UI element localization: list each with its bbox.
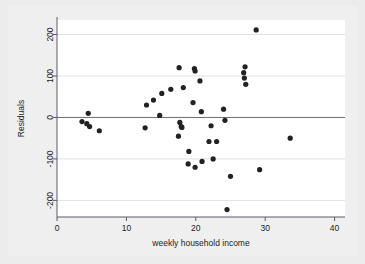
data-point [181, 85, 186, 90]
data-point [86, 111, 91, 116]
data-point [199, 109, 204, 114]
data-point [151, 97, 156, 102]
x-tick-label: 0 [55, 223, 60, 233]
data-point [208, 123, 213, 128]
data-point [241, 70, 246, 75]
data-point [177, 65, 182, 70]
y-tick-label: -200 [45, 192, 55, 209]
x-tick-label: 10 [122, 223, 132, 233]
data-point [214, 139, 219, 144]
data-point [211, 156, 216, 161]
data-point [206, 139, 211, 144]
y-tick-label: 100 [45, 69, 55, 83]
data-point [159, 91, 164, 96]
data-point [197, 78, 202, 83]
data-point [242, 75, 247, 80]
data-point [224, 207, 229, 212]
data-point [179, 125, 184, 130]
data-point [228, 174, 233, 179]
data-point [222, 118, 227, 123]
data-point [143, 125, 148, 130]
scatter-plot: 010203040 -200-1000100200 weekly househo… [0, 0, 365, 264]
y-tick-label: 200 [45, 27, 55, 41]
data-point [157, 113, 162, 118]
y-axis-title: Residuals [16, 100, 26, 137]
data-point [84, 121, 89, 126]
data-point [79, 119, 84, 124]
x-axis-tick-labels: 010203040 [55, 223, 340, 233]
y-tick-label: 0 [45, 115, 55, 120]
data-point [176, 134, 181, 139]
y-tick-label: -100 [45, 150, 55, 167]
x-tick-label: 20 [191, 223, 201, 233]
x-axis-ticks [57, 217, 335, 221]
data-point [199, 159, 204, 164]
data-point [193, 165, 198, 170]
data-point [257, 167, 262, 172]
data-point [186, 161, 191, 166]
data-point [254, 27, 259, 32]
data-point [190, 100, 195, 105]
data-point [288, 136, 293, 141]
data-point [186, 149, 191, 154]
data-point [168, 87, 173, 92]
data-point [193, 68, 198, 73]
data-point [221, 107, 226, 112]
x-tick-label: 30 [260, 223, 270, 233]
data-point [242, 64, 247, 69]
y-axis-tick-labels: -200-1000100200 [45, 27, 55, 209]
x-tick-label: 40 [330, 223, 340, 233]
x-axis-title: weekly household income [151, 238, 250, 248]
data-point [97, 128, 102, 133]
plot-area-background [57, 20, 345, 217]
data-point [243, 82, 248, 87]
data-point [144, 102, 149, 107]
